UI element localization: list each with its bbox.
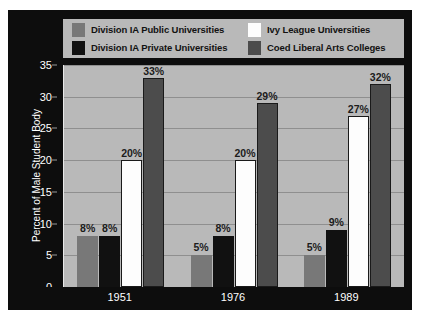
y-axis-tick-label: 5 bbox=[6, 249, 52, 261]
x-axis: 195119761989 bbox=[8, 287, 412, 310]
x-axis-tick-label: 1976 bbox=[221, 291, 245, 303]
bar: 20% bbox=[121, 160, 142, 287]
legend-swatch-ivy-league bbox=[248, 23, 261, 37]
bar-value-label: 8% bbox=[102, 222, 117, 234]
y-axis-tick-mark bbox=[52, 191, 57, 192]
bar-value-label: 20% bbox=[234, 147, 255, 159]
bar: 8% bbox=[77, 236, 98, 287]
legend-label-division-ia-public: Division IA Public Universities bbox=[91, 24, 224, 35]
legend-item-division-ia-public: Division IA Public Universities bbox=[72, 21, 224, 38]
legend-swatch-division-ia-public bbox=[72, 23, 85, 37]
chart-legend: Division IA Public Universities Division… bbox=[63, 19, 404, 58]
x-axis-tick-label: 1951 bbox=[107, 291, 131, 303]
bar: 8% bbox=[213, 236, 234, 287]
bar: 5% bbox=[191, 255, 212, 287]
y-axis-tick-mark bbox=[52, 223, 57, 224]
legend-swatch-coed-liberal-arts bbox=[248, 41, 261, 55]
bar-value-label: 29% bbox=[256, 90, 277, 102]
legend-label-division-ia-private: Division IA Private Universities bbox=[91, 42, 227, 53]
y-axis-tick-label: 10 bbox=[6, 218, 52, 230]
bar-value-label: 32% bbox=[370, 71, 391, 83]
y-axis-tick-mark bbox=[52, 160, 57, 161]
bar-value-label: 8% bbox=[215, 222, 230, 234]
bar-value-label: 33% bbox=[143, 65, 164, 77]
bar: 9% bbox=[326, 230, 347, 287]
y-axis-tick-mark bbox=[52, 65, 57, 66]
y-axis-tick-label: 35 bbox=[6, 59, 52, 71]
bar-value-label: 8% bbox=[80, 222, 95, 234]
gridline bbox=[64, 65, 404, 66]
bar-value-label: 9% bbox=[329, 216, 344, 228]
y-axis-tick-mark bbox=[52, 255, 57, 256]
bar-value-label: 5% bbox=[193, 241, 208, 253]
bar: 5% bbox=[304, 255, 325, 287]
y-axis-tick-mark bbox=[52, 128, 57, 129]
bar-value-label: 27% bbox=[348, 103, 369, 115]
legend-label-ivy-league: Ivy League Universities bbox=[267, 24, 370, 35]
bar: 33% bbox=[143, 78, 164, 287]
y-axis-tick-label: 25 bbox=[6, 122, 52, 134]
legend-item-ivy-league: Ivy League Universities bbox=[248, 21, 370, 38]
bar-value-label: 5% bbox=[307, 241, 322, 253]
legend-label-coed-liberal-arts: Coed Liberal Arts Colleges bbox=[267, 42, 385, 53]
bar: 29% bbox=[257, 103, 278, 287]
x-axis-tick-label: 1989 bbox=[334, 291, 358, 303]
bar: 20% bbox=[235, 160, 256, 287]
plot-area: 051015202530358%8%20%33%5%8%20%29%5%9%27… bbox=[63, 65, 404, 287]
gridline bbox=[64, 97, 404, 98]
y-axis-tick-label: 30 bbox=[6, 91, 52, 103]
bar: 32% bbox=[370, 84, 391, 287]
legend-item-coed-liberal-arts: Coed Liberal Arts Colleges bbox=[248, 39, 385, 56]
bar-chart: Division IA Public Universities Division… bbox=[8, 10, 412, 310]
legend-item-division-ia-private: Division IA Private Universities bbox=[72, 39, 227, 56]
bar: 8% bbox=[99, 236, 120, 287]
bar: 27% bbox=[348, 116, 369, 287]
y-axis-tick-label: 15 bbox=[6, 186, 52, 198]
legend-swatch-division-ia-private bbox=[72, 41, 85, 55]
y-axis-tick-label: 20 bbox=[6, 154, 52, 166]
y-axis-title: Percent of Male Student Body bbox=[31, 86, 42, 266]
y-axis-tick-mark bbox=[52, 96, 57, 97]
bar-value-label: 20% bbox=[121, 147, 142, 159]
